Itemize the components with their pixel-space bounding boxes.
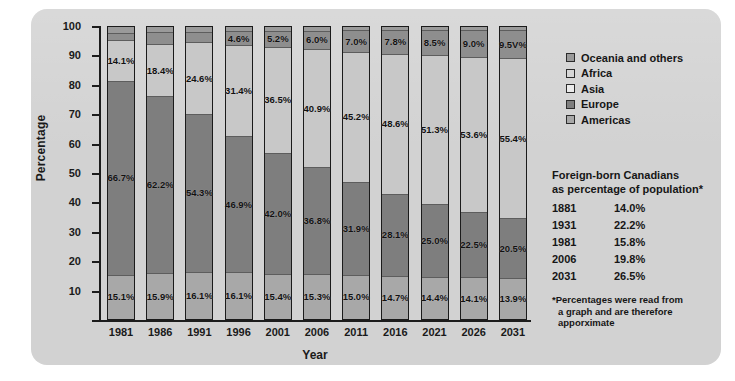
bar-segment[interactable]: 15.3%	[304, 274, 330, 319]
bar-segment-label: 15.1%	[108, 292, 135, 302]
stats-row: 198115.8%	[552, 236, 727, 253]
y-tick-label: 30	[69, 227, 81, 237]
bar-segment[interactable]: 62.2%	[147, 96, 173, 273]
legend-item[interactable]: Europe	[566, 97, 683, 113]
stacked-bar[interactable]: 6.0%40.9%36.8%15.3%	[303, 26, 331, 320]
stacked-bar[interactable]: 9.5V%55.4%20.5%13.9%	[499, 26, 527, 320]
bar-segment[interactable]: 15.1%	[108, 275, 134, 319]
x-tick-label: 2021	[422, 326, 446, 338]
bar-column[interactable]: 18.4%62.2%15.9%1986	[146, 26, 174, 320]
stacked-bar[interactable]: 7.8%48.6%28.1%14.7%	[381, 26, 409, 320]
bar-segment[interactable]: 16.1%	[186, 272, 212, 319]
bar-segment[interactable]: 4.6%	[226, 31, 252, 45]
bar-segment-label: 15.9%	[147, 292, 174, 302]
bar-segment[interactable]: 54.3%	[186, 114, 212, 271]
bar-segment[interactable]: 15.9%	[147, 273, 173, 319]
bar-segment-label: 15.3%	[303, 292, 330, 302]
bar-segment[interactable]: 55.4%	[500, 58, 526, 218]
stats-block: Foreign-born Canadians as percentage of …	[552, 169, 727, 329]
bar-segment[interactable]: 14.1%	[108, 40, 134, 82]
bar-segment[interactable]: 7.8%	[382, 30, 408, 53]
bar-segment[interactable]: 5.2%	[265, 31, 291, 47]
bar-segment[interactable]: 9.0%	[461, 30, 487, 57]
bar-segment[interactable]: 18.4%	[147, 44, 173, 97]
bar-segment[interactable]: 20.5%	[500, 218, 526, 278]
bar-column[interactable]: 6.0%40.9%36.8%15.3%2006	[303, 26, 331, 320]
legend-item[interactable]: Asia	[566, 81, 683, 97]
y-tick: 50	[92, 173, 99, 175]
x-tick-label: 1991	[187, 326, 211, 338]
bar-segment[interactable]: 15.0%	[343, 275, 369, 319]
bar-segment[interactable]: 31.4%	[226, 45, 252, 136]
legend-item[interactable]: Africa	[566, 66, 683, 82]
bar-segment[interactable]: 53.6%	[461, 57, 487, 212]
bar-column[interactable]: 4.6%31.4%46.9%16.1%1996	[225, 26, 253, 320]
bar-segment[interactable]: 22.5%	[461, 212, 487, 278]
legend-item[interactable]: Oceania and others	[566, 50, 683, 66]
bar-segment-label: 14.1%	[460, 294, 487, 304]
bar-column[interactable]: 5.2%36.5%42.0%15.4%2001	[264, 26, 292, 320]
bar-segment[interactable]: 36.8%	[304, 167, 330, 274]
bar-segment[interactable]: 24.6%	[186, 42, 212, 114]
bar-column[interactable]: 7.0%45.2%31.9%15.0%2011	[342, 26, 370, 320]
bar-column[interactable]: 24.6%54.3%16.1%1991	[185, 26, 213, 320]
bar-segment[interactable]: 9.5V%	[500, 30, 526, 58]
stats-row: 188114.0%	[552, 202, 727, 219]
bar-column[interactable]: 14.1%66.7%15.1%1981	[107, 26, 135, 320]
stacked-bar[interactable]: 14.1%66.7%15.1%	[107, 26, 135, 320]
y-tick: 20	[92, 261, 99, 263]
bar-segment[interactable]: 14.1%	[461, 277, 487, 319]
bar-segment-label: 6.0%	[306, 35, 328, 45]
bar-segment[interactable]: 45.2%	[343, 52, 369, 183]
bar-column[interactable]: 9.0%53.6%22.5%14.1%2026	[460, 26, 488, 320]
stacked-bar[interactable]: 24.6%54.3%16.1%	[185, 26, 213, 320]
bar-segment[interactable]: 40.9%	[304, 49, 330, 167]
bar-segment[interactable]: 46.9%	[226, 136, 252, 271]
stacked-bar[interactable]: 7.0%45.2%31.9%15.0%	[342, 26, 370, 320]
bar-segment[interactable]: 66.7%	[108, 81, 134, 274]
bar-segment[interactable]	[108, 33, 134, 40]
stacked-bar[interactable]: 4.6%31.4%46.9%16.1%	[225, 26, 253, 320]
stacked-bar[interactable]: 5.2%36.5%42.0%15.4%	[264, 26, 292, 320]
bar-segment[interactable]: 28.1%	[382, 194, 408, 276]
bar-segment[interactable]: 36.5%	[265, 47, 291, 153]
stacked-bar[interactable]: 9.0%53.6%22.5%14.1%	[460, 26, 488, 320]
bar-segment[interactable]: 15.4%	[265, 274, 291, 319]
bar-segment[interactable]: 8.5%	[422, 30, 448, 55]
bar-segment-label: 18.4%	[147, 66, 174, 76]
stacked-bar[interactable]: 8.5%51.3%25.0%14.4%	[421, 26, 449, 320]
bar-segment[interactable]: 13.9%	[500, 278, 526, 319]
bar-segment[interactable]: 51.3%	[422, 55, 448, 203]
bar-segment[interactable]	[186, 32, 212, 43]
bar-segment[interactable]: 31.9%	[343, 182, 369, 275]
bar-segment-label: 15.4%	[264, 292, 291, 302]
stats-row: 193122.2%	[552, 219, 727, 236]
bar-segment[interactable]: 7.0%	[343, 30, 369, 51]
bar-segment[interactable]: 14.4%	[422, 277, 448, 319]
stats-footnote: *Percentages were read from a graph and …	[552, 294, 727, 329]
legend-label: Oceania and others	[581, 52, 683, 64]
stats-row-value: 22.2%	[614, 219, 645, 231]
bar-column[interactable]: 7.8%48.6%28.1%14.7%2016	[381, 26, 409, 320]
bar-segment[interactable]: 16.1%	[226, 272, 252, 319]
stacked-bar[interactable]: 18.4%62.2%15.9%	[146, 26, 174, 320]
y-tick-label: 40	[69, 197, 81, 207]
bar-segment[interactable]: 25.0%	[422, 204, 448, 277]
bar-segment[interactable]: 42.0%	[265, 153, 291, 274]
stats-title: Foreign-born Canadians as percentage of …	[552, 169, 727, 196]
bar-segment[interactable]: 48.6%	[382, 54, 408, 195]
bar-column[interactable]: 8.5%51.3%25.0%14.4%2021	[421, 26, 449, 320]
stats-row-year: 2006	[552, 253, 614, 265]
x-tick-label: 2026	[461, 326, 485, 338]
y-tick-label: 70	[69, 109, 81, 119]
y-tick: 90	[92, 55, 99, 57]
bar-segment-label: 20.5%	[499, 244, 526, 254]
bar-segment-label: 36.8%	[303, 216, 330, 226]
bar-segment[interactable]	[147, 32, 173, 44]
bar-segment[interactable]: 14.7%	[382, 276, 408, 319]
bar-column[interactable]: 9.5V%55.4%20.5%13.9%2031	[499, 26, 527, 320]
bar-segment[interactable]: 6.0%	[304, 31, 330, 49]
legend-label: Africa	[581, 67, 612, 79]
legend-item[interactable]: Americas	[566, 112, 683, 128]
legend-swatch-icon	[566, 84, 575, 93]
